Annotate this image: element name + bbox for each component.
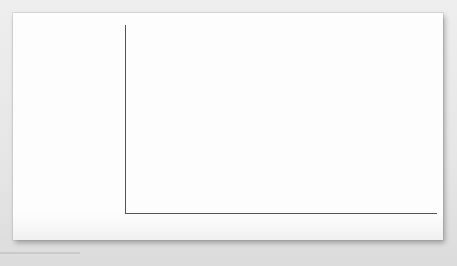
scatter-plot [0,0,457,266]
y-axis-line [125,25,126,213]
figure-root [0,0,457,266]
x-axis-line [125,213,437,214]
